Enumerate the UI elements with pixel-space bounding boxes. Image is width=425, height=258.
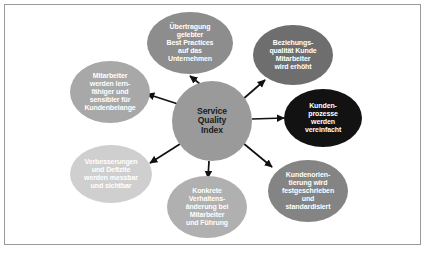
arrow-to-kundenprozesse: [252, 118, 284, 119]
diagram-screenshot: ÜbertragunggelebterBest Practicesauf das…: [0, 0, 425, 258]
nodes-layer: [70, 12, 362, 238]
node-mitarbeiter-lernfaehig[interactable]: [70, 61, 150, 123]
arrow-to-mitarbeiter: [147, 94, 178, 104]
arrow-to-kundenorientierung: [243, 143, 272, 167]
arrow-to-verbesserungen: [150, 144, 180, 163]
arrow-to-best-practices: [190, 76, 200, 84]
node-verhaltensaenderung[interactable]: [167, 176, 247, 238]
node-beziehungsqualitaet[interactable]: [253, 25, 333, 85]
node-verbesserungen-defizite[interactable]: [70, 145, 152, 203]
node-kundenorientierung[interactable]: [268, 160, 348, 222]
node-kundenprozesse[interactable]: [284, 89, 362, 147]
arrow-to-beziehungsqualitaet: [242, 80, 265, 100]
arrow-to-verhaltensaenderung: [208, 161, 209, 178]
diagram-canvas: [0, 0, 425, 258]
node-service-quality-index[interactable]: [172, 81, 252, 161]
node-best-practices[interactable]: [147, 12, 233, 74]
